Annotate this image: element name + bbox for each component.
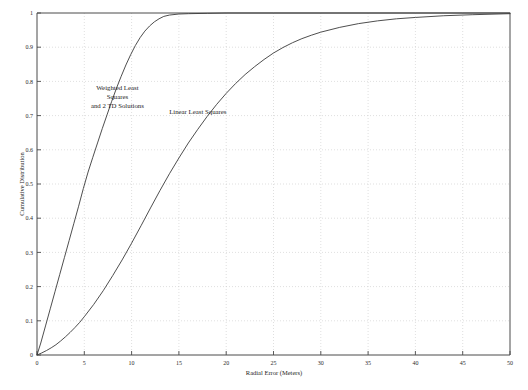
annotation-layer: Weighted LeastSquaresand 2 TD SolutionsL… <box>91 84 227 115</box>
weighted-least-squares-label-line-1: Squares <box>107 93 129 100</box>
weighted-least-squares-label: Weighted LeastSquaresand 2 TD Solutions <box>91 84 144 109</box>
xtick-label-layer: 05101520253035404550 <box>36 360 514 366</box>
y-tick-label: 0.8 <box>26 79 34 85</box>
y-tick-label: 0 <box>30 352 33 358</box>
y-tick-label: 0.7 <box>26 113 34 119</box>
weighted-least-squares-label-line-2: and 2 TD Solutions <box>91 102 144 109</box>
chart-svg: 05101520253035404550 00.10.20.30.40.50.6… <box>0 0 528 390</box>
linear-least-squares-label: Linear Least Squares <box>169 108 227 115</box>
x-tick-label: 45 <box>460 360 466 366</box>
y-tick-label: 0.1 <box>26 318 34 324</box>
x-tick-label: 5 <box>83 360 86 366</box>
x-axis-title: Radial Error (Meters) <box>246 369 302 377</box>
y-tick-label: 0.2 <box>26 284 34 290</box>
x-tick-label: 15 <box>176 360 182 366</box>
x-tick-label: 0 <box>36 360 39 366</box>
y-tick-label: 0.5 <box>26 181 34 187</box>
y-axis-title: Cumulative Distribution <box>18 152 25 216</box>
y-tick-label: 1 <box>30 10 33 16</box>
ytick-label-layer: 00.10.20.30.40.50.60.70.80.91 <box>26 10 34 358</box>
linear-least-squares-label-line-0: Linear Least Squares <box>169 108 227 115</box>
x-tick-label: 25 <box>271 360 277 366</box>
x-tick-label: 10 <box>129 360 135 366</box>
y-tick-label: 0.4 <box>26 215 34 221</box>
x-tick-label: 35 <box>365 360 371 366</box>
y-tick-label: 0.3 <box>26 250 34 256</box>
x-tick-label: 40 <box>412 360 418 366</box>
weighted-least-squares-label-line-0: Weighted Least <box>96 84 138 91</box>
grid-layer <box>37 13 510 355</box>
x-tick-label: 50 <box>507 360 513 366</box>
y-tick-label: 0.6 <box>26 147 34 153</box>
x-tick-label: 30 <box>318 360 324 366</box>
chart-figure: 05101520253035404550 00.10.20.30.40.50.6… <box>0 0 528 390</box>
y-tick-label: 0.9 <box>26 44 34 50</box>
x-tick-label: 20 <box>223 360 229 366</box>
